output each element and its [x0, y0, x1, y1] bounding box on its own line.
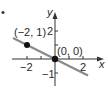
- x-tick-label-neg2: −2: [20, 61, 33, 73]
- y-tick-label-neg1: −1: [42, 68, 55, 80]
- x-axis-label: x: [98, 58, 105, 70]
- x-tick-label-2: 2: [80, 61, 86, 73]
- y-axis-arrow-icon: [53, 12, 58, 19]
- bullet-mark: •: [1, 6, 5, 18]
- y-tick-label-2: 2: [47, 25, 53, 37]
- point-label-origin: (0, 0): [57, 45, 83, 57]
- point-neg2-1: [24, 42, 30, 48]
- y-axis-label: y: [46, 6, 54, 18]
- point-label-neg2-1: (−2, 1): [14, 26, 46, 38]
- graph: • y x 2 −1 −2 2 (−2, 1) (0, 0): [0, 0, 108, 96]
